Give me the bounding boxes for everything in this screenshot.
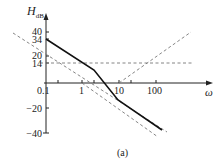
rising-asymptote [119, 32, 191, 83]
x-tick-label-0.1: 0.1 [37, 86, 50, 96]
composite-curve [46, 39, 162, 130]
y-tick-label-34: 34 [20, 35, 42, 45]
y-tick-label-neg40: −40 [20, 129, 42, 139]
y-tick-label-neg20: −20 [20, 104, 42, 114]
y-axis-arrow-icon [44, 13, 49, 20]
bode-plot [0, 0, 224, 165]
x-tick-label-100: 100 [147, 86, 162, 96]
x-axis-arrow-icon [206, 81, 213, 86]
figure-caption: (a) [117, 148, 128, 158]
y-tick-label-14: 14 [20, 59, 42, 69]
x-tick-label-1: 1 [79, 86, 84, 96]
x-axis-label: ω [205, 87, 213, 98]
x-tick-label-10: 10 [114, 86, 124, 96]
y-axis-label: HdB [27, 5, 44, 20]
